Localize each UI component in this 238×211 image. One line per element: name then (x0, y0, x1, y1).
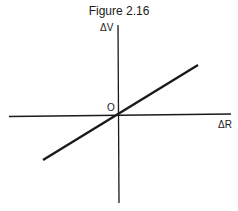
x-axis (9, 114, 231, 117)
origin-label: O (107, 102, 115, 113)
y-axis-label: ΔV (100, 22, 113, 33)
diagram-canvas (0, 0, 238, 211)
proportional-line (43, 65, 198, 160)
x-axis-label: ΔR (218, 119, 232, 130)
